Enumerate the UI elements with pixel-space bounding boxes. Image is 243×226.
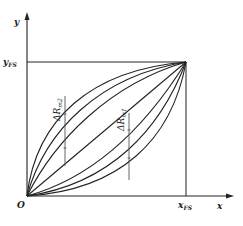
x-axis-arrow-icon [226,194,234,199]
y-fs-sub: FS [7,61,17,68]
y-axis-arrow-icon [25,12,30,20]
origin-label: O [17,200,25,210]
y-fs-label: yFS [2,57,17,68]
x-fs-sub: FS [182,204,192,211]
delta-r-m1-sub: m1 [120,108,127,118]
x-axis-label: x [216,201,223,211]
delta-r-m2-label: ΔRm2 [52,98,63,122]
y-axis-label: y [13,17,20,27]
transfer-curves-diagram: y x O yFS xFS ΔRm2 ΔRm1 [0,0,243,226]
delta-r-m2-main: ΔR [52,108,62,122]
delta-r-m1-label: ΔRm1 [116,108,127,132]
x-fs-label: xFS [177,200,193,211]
delta-r-m2-sub: m2 [56,98,63,108]
characteristic-curves [27,62,186,196]
delta-r-m1-main: ΔR [116,118,126,132]
